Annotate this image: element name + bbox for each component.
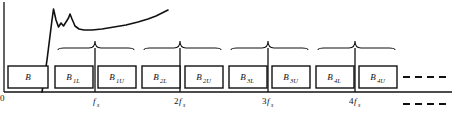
axis-tick-fs-subscript: s [97,102,100,108]
band-box-b3u-label: B [283,72,289,82]
band-box-b3l-label: B [240,72,246,82]
band-box-b1u: B1U [98,66,136,88]
axis-tick-label-group: fs2fs3fs4fs [93,96,361,108]
band-box-b1u-subscript: 1U [116,77,125,84]
axis-tick-2fs: 2fs [174,96,186,108]
axis-tick-3fs-subscript: s [271,102,274,108]
band-box-b3l-subscript: 3L [246,77,254,84]
axis-tick-fs: fs [93,96,100,108]
band-box-b4l: B4L [316,66,354,88]
brace-1 [58,41,134,50]
band-box-b4u-subscript: 4U [377,77,386,84]
band-box-b1l: B1L [55,66,93,88]
axis-tick-3fs: 3fs [262,96,274,108]
brace-group [58,41,395,50]
band-box-b2l-subscript: 2L [160,77,167,84]
band-box-b4l-subscript: 4L [334,77,341,84]
band-box-b2u: B2U [185,66,223,88]
axis-tick-4fs: 4fs [349,96,361,108]
brace-2 [144,41,221,50]
band-box-b4u-label: B [370,72,376,82]
axis-tick-2fs-subscript: s [183,102,186,108]
origin-label: 0 [0,93,5,103]
band-box-b3u-subscript: 3U [289,77,299,84]
band-box-b3u: B3U [272,66,310,88]
brace-4 [318,41,395,50]
band-box-b1u-label: B [109,72,115,82]
spectrum-band-diagram: 0 BB1LB1UB2LB2UB3LB3UB4LB4U fs2fs3fs4fs [0,0,452,113]
band-box-b2u-label: B [196,72,202,82]
band-box-group: BB1LB1UB2LB2UB3LB3UB4LB4U [8,66,397,88]
band-box-b1l-label: B [66,72,72,82]
band-box-b4u: B4U [359,66,397,88]
band-box-b2u-subscript: 2U [203,77,212,84]
band-box-b3l: B3L [229,66,267,88]
band-box-b2l: B2L [142,66,180,88]
diagram-canvas: 0 BB1LB1UB2LB2UB3LB3UB4LB4U fs2fs3fs4fs [0,0,452,113]
brace-3 [231,41,308,50]
band-box-b1l-subscript: 1L [73,77,80,84]
axis-tick-2fs-prefix: 2 [174,96,179,106]
band-box-b2l-label: B [153,72,159,82]
band-box-b-label: B [25,72,31,82]
band-box-b: B [8,66,48,88]
band-box-b4l-label: B [327,72,333,82]
axis-tick-4fs-subscript: s [358,102,361,108]
